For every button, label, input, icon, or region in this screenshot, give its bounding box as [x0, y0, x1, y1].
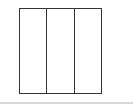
bottom-divider: [0, 102, 133, 104]
column-3: [74, 9, 101, 93]
column-1: [20, 9, 46, 93]
column-2: [46, 9, 73, 93]
divided-square: [19, 8, 102, 94]
